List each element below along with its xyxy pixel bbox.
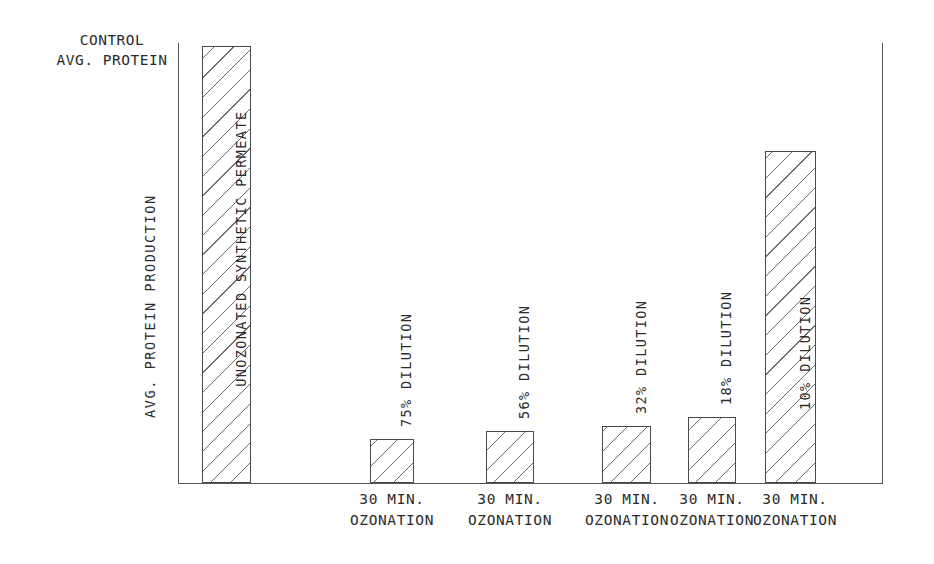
bar-2 <box>370 439 414 483</box>
y-axis-title: AVG. PROTEIN PRODUCTION <box>142 194 158 418</box>
bar-4 <box>602 426 651 483</box>
control-caption-line2: AVG. PROTEIN <box>56 50 168 70</box>
bar-label-4: 32% DILUTION <box>633 300 649 414</box>
bar-5 <box>688 417 736 483</box>
right-axis-line <box>882 43 883 484</box>
tick-label-line1: 30 MIN. <box>725 489 865 510</box>
tick-label-6: 30 MIN.OZONATION <box>725 489 865 531</box>
control-caption-line1: CONTROL <box>56 30 168 50</box>
bar-label-6: 10% DILUTION <box>797 296 813 410</box>
chart-figure: CONTROL AVG. PROTEIN AVG. PROTEIN PRODUC… <box>0 0 934 564</box>
bar-label-2: 75% DILUTION <box>398 313 414 427</box>
y-axis-line <box>178 43 179 484</box>
bar-3 <box>486 431 534 483</box>
bar-label-5: 18% DILUTION <box>718 291 734 405</box>
tick-label-line2: OZONATION <box>725 510 865 531</box>
bar-label-3: 56% DILUTION <box>516 305 532 419</box>
control-caption: CONTROL AVG. PROTEIN <box>56 30 168 70</box>
x-axis-baseline <box>178 483 883 484</box>
bar-label-1: UNOZONATED SYNTHETIC PERMEATE <box>233 111 249 387</box>
